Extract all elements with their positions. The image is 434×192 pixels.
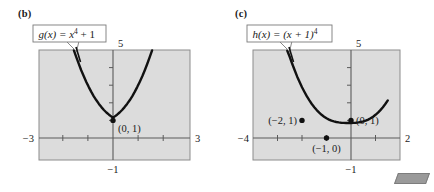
x-left-label-b: −3 xyxy=(23,133,34,144)
panel-c: (c) xyxy=(217,0,434,192)
x-right-label-c: 2 xyxy=(405,133,410,144)
callout-text-b: g(x) = x4 + 1 xyxy=(39,27,95,41)
figure-container: (b) xyxy=(0,0,434,192)
point-label-c-neg1-0: (−1, 0) xyxy=(312,143,341,155)
point-marker-c-neg1-0 xyxy=(324,135,329,140)
panel-b-plot: (0, 1) −3 3 5 −1 g(x) = x4 + 1 xyxy=(0,0,217,192)
y-bottom-label-b: −1 xyxy=(107,164,118,175)
point-label-c-0-1: (0, 1) xyxy=(356,115,379,127)
y-bottom-label-c: −1 xyxy=(345,164,356,175)
panel-b: (b) xyxy=(0,0,217,192)
x-left-label-c: −4 xyxy=(238,133,250,144)
callout-text-c: h(x) = (x + 1)4 xyxy=(253,27,318,41)
point-marker-c-0-1 xyxy=(348,118,353,123)
point-label-c-neg2-1: (−2, 1) xyxy=(268,115,297,127)
point-marker-b-0-1 xyxy=(110,118,115,123)
y-top-label-b: 5 xyxy=(118,38,123,49)
x-right-label-b: 3 xyxy=(195,133,200,144)
corner-slab-decoration xyxy=(394,173,430,184)
panel-c-plot: (−2, 1) (0, 1) (−1, 0) −4 2 5 −1 h(x) = … xyxy=(217,0,434,192)
point-label-b-0-1: (0, 1) xyxy=(118,123,141,135)
plot-background-b xyxy=(39,50,190,160)
point-marker-c-neg2-1 xyxy=(299,118,304,123)
y-top-label-c: 5 xyxy=(356,38,361,49)
